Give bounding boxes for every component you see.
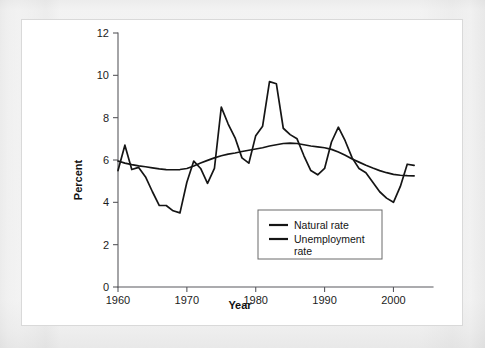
data-series-group — [118, 82, 414, 213]
legend-label-unemployment-rate-line2: rate — [294, 245, 312, 257]
figure-card: 024681012 19601970198019902000 Percent Y… — [22, 20, 462, 325]
x-axis-ticks: 19601970198019902000 — [106, 287, 406, 306]
chart-legend: Natural rate Unemployment rate — [258, 210, 382, 259]
legend-label-natural-rate: Natural rate — [294, 219, 349, 231]
line-chart: 024681012 19601970198019902000 Percent Y… — [22, 20, 462, 325]
y-tick-label: 0 — [103, 281, 109, 293]
x-axis-title: Year — [228, 299, 252, 311]
y-tick-label: 12 — [97, 27, 109, 39]
y-axis-ticks: 024681012 — [97, 27, 118, 293]
x-tick-label: 1970 — [175, 294, 199, 306]
y-axis-title: Percent — [72, 159, 84, 200]
y-tick-label: 6 — [103, 154, 109, 166]
x-tick-label: 2000 — [381, 294, 405, 306]
x-tick-label: 1960 — [106, 294, 130, 306]
y-tick-label: 2 — [103, 239, 109, 251]
screenshot-page: 024681012 19601970198019902000 Percent Y… — [0, 0, 485, 348]
y-tick-label: 4 — [103, 196, 109, 208]
y-tick-label: 10 — [97, 69, 109, 81]
series-line-natural-rate — [118, 143, 414, 176]
legend-label-unemployment-rate: Unemployment — [294, 233, 365, 245]
y-tick-label: 8 — [103, 112, 109, 124]
x-tick-label: 1990 — [312, 294, 336, 306]
